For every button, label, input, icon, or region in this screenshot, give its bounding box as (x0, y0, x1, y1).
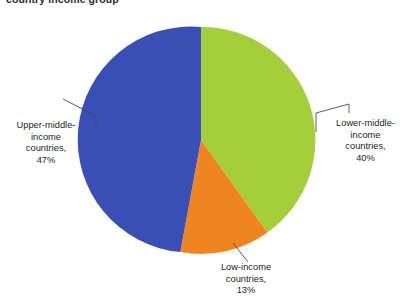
pie-label-upper-middle-income: Upper-middle- income countries, 47% (0, 120, 92, 166)
pie-label-low-income: Low-income countries, 13% (185, 262, 307, 297)
pie-chart-figure: country income group Upper-middle- incom… (0, 0, 405, 301)
pie-slice-upper-middle-income[interactable] (78, 27, 201, 253)
pie-label-lower-middle-income: Lower-middle- income countries, 40% (326, 118, 405, 164)
